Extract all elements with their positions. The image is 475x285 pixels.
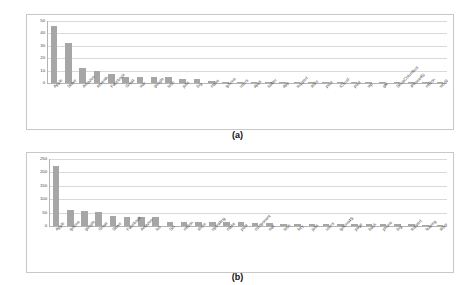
bar-series-a — [27, 15, 453, 129]
caption-a: (a) — [0, 130, 475, 140]
bar — [53, 166, 60, 226]
bar — [65, 43, 72, 83]
caption-b: (b) — [0, 272, 475, 282]
bar-series-b — [27, 153, 453, 272]
plot-area-b: 050100150200250 AppleiphonegoogleGreatSt… — [27, 153, 453, 272]
bar — [51, 26, 58, 83]
figure-container: 01020304050 AppleSteveAmazonseventhFaceb… — [0, 0, 475, 285]
chart-panel-a: 01020304050 AppleSteveAmazonseventhFaceb… — [26, 14, 454, 130]
chart-panel-b: 050100150200250 AppleiphonegoogleGreatSt… — [26, 152, 454, 273]
plot-area-a: 01020304050 AppleSteveAmazonseventhFaceb… — [27, 15, 453, 129]
